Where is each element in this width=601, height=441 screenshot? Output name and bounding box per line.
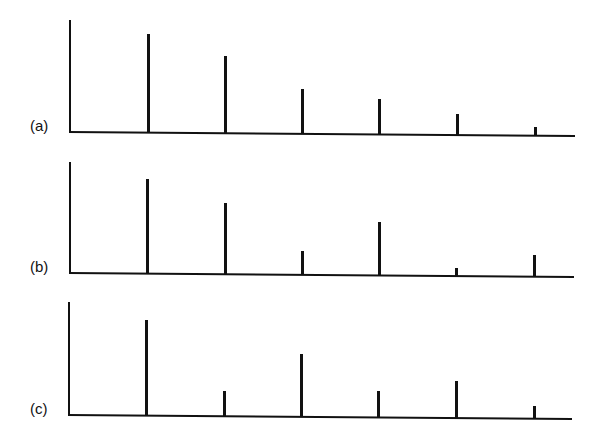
y-axis-b [69, 162, 71, 273]
stem-bar-a-5 [456, 114, 459, 135]
y-axis-a [69, 20, 71, 132]
panel-label-c: (c) [30, 400, 48, 417]
stem-bar-c-5 [455, 381, 458, 418]
stem-bar-b-2 [224, 203, 227, 274]
stem-bar-a-4 [378, 99, 381, 134]
stem-bar-a-2 [224, 56, 227, 133]
stem-bar-c-1 [145, 320, 148, 416]
stem-bar-b-5 [455, 268, 458, 276]
panel-label-b: (b) [30, 258, 48, 275]
x-axis-a [69, 131, 575, 137]
stem-bar-c-2 [223, 391, 226, 416]
stem-bar-b-6 [533, 255, 536, 277]
stem-bar-b-4 [378, 222, 381, 275]
stem-bar-b-1 [146, 179, 149, 274]
stem-bar-c-3 [300, 354, 303, 417]
stem-bar-c-6 [533, 406, 536, 419]
stem-bar-b-3 [301, 251, 304, 275]
panel-label-a: (a) [30, 117, 48, 134]
stem-bar-a-3 [301, 89, 304, 134]
stem-bar-a-6 [534, 127, 537, 136]
x-axis-b [69, 272, 574, 278]
stem-bar-c-4 [377, 391, 380, 417]
stem-bar-a-1 [147, 34, 150, 133]
x-axis-c [68, 414, 572, 420]
y-axis-c [68, 302, 70, 415]
